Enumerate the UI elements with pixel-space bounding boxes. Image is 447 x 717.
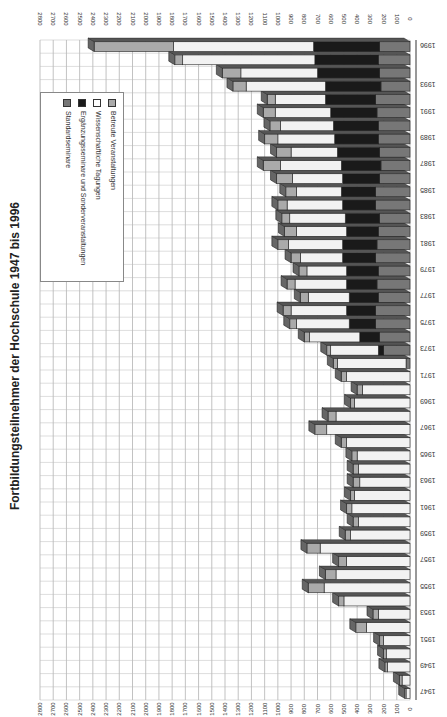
bar-segment bbox=[355, 398, 411, 408]
bar-segment bbox=[349, 292, 378, 302]
year-tick-label: 1975 bbox=[420, 319, 436, 326]
year-tick-label: 1955 bbox=[420, 583, 436, 590]
bar-segment bbox=[347, 266, 379, 276]
value-tick-label: 1100 bbox=[262, 11, 268, 27]
bar-segment bbox=[325, 94, 375, 104]
bar-segment bbox=[287, 200, 343, 210]
bar-segment bbox=[384, 345, 410, 355]
bar-segment bbox=[341, 187, 375, 197]
bar-segment bbox=[282, 213, 290, 223]
bar-segment bbox=[347, 279, 377, 289]
year-tick-label: 1967 bbox=[420, 424, 436, 431]
bar-segment bbox=[288, 240, 342, 250]
bar-segment bbox=[347, 556, 410, 566]
bar-segment bbox=[380, 147, 410, 157]
value-tick-label: 1000 bbox=[275, 701, 281, 717]
bar-segment bbox=[291, 147, 337, 157]
value-tick-label: 900 bbox=[288, 11, 294, 27]
value-tick-label: 1300 bbox=[235, 11, 241, 27]
year-tick-label: 1977 bbox=[420, 292, 436, 299]
bar-segment bbox=[328, 411, 336, 421]
value-tick-label: 2400 bbox=[90, 701, 96, 717]
value-tick-label: 1200 bbox=[248, 701, 254, 717]
bar-segment bbox=[290, 319, 297, 329]
year-tick-label: 1949 bbox=[420, 662, 436, 669]
bar-segment bbox=[270, 121, 281, 131]
bar-segment bbox=[377, 279, 410, 289]
legend-label: Ergänzungsseminare und Sonderveranstaltu… bbox=[80, 111, 87, 265]
legend-item-betreute: Betreute Veranstaltungen bbox=[108, 99, 117, 275]
value-tick-label: 2600 bbox=[63, 701, 69, 717]
value-tick-label: 2300 bbox=[103, 701, 109, 717]
bar-segment bbox=[343, 253, 376, 263]
bar-segment bbox=[351, 530, 410, 540]
bar-segment bbox=[347, 372, 410, 382]
bar-segment bbox=[349, 319, 375, 329]
bar-segment bbox=[378, 226, 410, 236]
year-tick-label: 1951 bbox=[420, 636, 436, 643]
bar-segment bbox=[388, 662, 410, 672]
bar-segment bbox=[356, 622, 367, 632]
bar-segment bbox=[286, 187, 297, 197]
bar-segment bbox=[315, 55, 378, 65]
legend-swatch-wissenschaftliche bbox=[93, 99, 101, 107]
bar-segment bbox=[290, 213, 346, 223]
bar-segment bbox=[275, 108, 331, 118]
value-tick-label: 800 bbox=[301, 701, 307, 717]
bar-segment bbox=[324, 583, 410, 593]
value-tick-label: 2500 bbox=[77, 701, 83, 717]
bar-segment bbox=[341, 160, 381, 170]
bar-segment bbox=[353, 517, 358, 527]
legend-label: Betreute Veranstaltungen bbox=[110, 111, 117, 190]
bar-segment bbox=[384, 649, 387, 659]
bar-segment bbox=[355, 490, 411, 500]
bar-segment bbox=[304, 332, 309, 342]
legend-swatch-ergaenzung bbox=[78, 99, 86, 107]
bar-segment bbox=[345, 213, 379, 223]
year-tick-label: 1983 bbox=[420, 213, 436, 220]
bar-segment bbox=[358, 464, 410, 474]
value-tick-label: 2800 bbox=[37, 701, 43, 717]
bar-segment bbox=[378, 609, 410, 619]
bar-segment bbox=[343, 240, 377, 250]
year-tick-label: 1963 bbox=[420, 477, 436, 484]
bar-segment bbox=[378, 292, 410, 302]
bar-segment bbox=[347, 504, 352, 514]
bar-segment bbox=[406, 358, 410, 368]
bar-segment bbox=[278, 240, 289, 250]
bar-segment bbox=[378, 266, 410, 276]
year-tick-label: 1991 bbox=[420, 108, 436, 115]
value-tick-label: 200 bbox=[381, 701, 387, 717]
bar-segment bbox=[241, 68, 318, 78]
value-tick-label: 2200 bbox=[116, 11, 122, 27]
bar-segment bbox=[222, 68, 241, 78]
value-tick-label: 1800 bbox=[169, 701, 175, 717]
bar-segment bbox=[360, 332, 380, 342]
bar-segment bbox=[345, 530, 350, 540]
bar-segment bbox=[277, 174, 293, 184]
bar-segment bbox=[376, 187, 410, 197]
value-tick-label: 1600 bbox=[196, 11, 202, 27]
bar-segment bbox=[341, 372, 346, 382]
year-tick-label: 1947 bbox=[420, 688, 436, 695]
bar-segment bbox=[94, 42, 173, 52]
bar-segment bbox=[173, 42, 313, 52]
value-tick-label: 1000 bbox=[275, 11, 281, 27]
year-tick-label: 1959 bbox=[420, 530, 436, 537]
value-tick-label: 2500 bbox=[77, 11, 83, 27]
bar-segment bbox=[296, 319, 349, 329]
bar-segment bbox=[310, 332, 360, 342]
bar-segment bbox=[376, 94, 410, 104]
value-tick-label: 500 bbox=[341, 11, 347, 27]
bar-segment bbox=[337, 147, 379, 157]
bar-segment bbox=[378, 345, 383, 355]
value-tick-label: 2300 bbox=[103, 11, 109, 27]
bar-segment bbox=[287, 279, 295, 289]
bar-segment bbox=[381, 160, 410, 170]
value-tick-label: 900 bbox=[288, 701, 294, 717]
bar-segment bbox=[376, 306, 410, 316]
bar-segment bbox=[376, 200, 410, 210]
bar-segment bbox=[343, 200, 376, 210]
bar-segment bbox=[314, 42, 380, 52]
bar-segment bbox=[292, 174, 342, 184]
